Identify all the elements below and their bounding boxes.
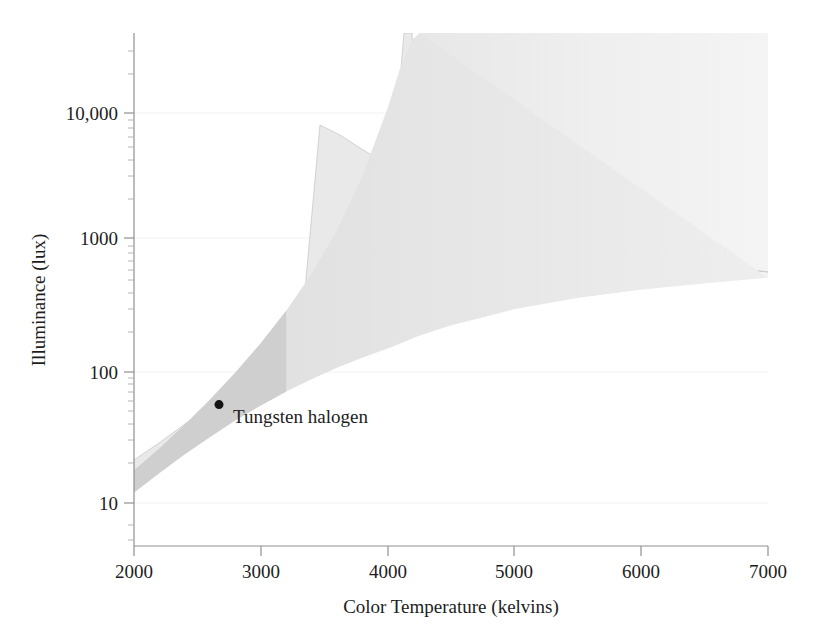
y-tick-label-100: 100 <box>90 362 119 383</box>
x-tick-label-6000: 6000 <box>622 561 660 582</box>
y-tick-label-10: 10 <box>99 493 118 514</box>
y-tick-label-10000: 10,000 <box>66 103 118 124</box>
x-tick-label-5000: 5000 <box>495 561 533 582</box>
x-tick-label-2000: 2000 <box>115 561 153 582</box>
x-tick-label-4000: 4000 <box>369 561 407 582</box>
x-tick-label-7000: 7000 <box>749 561 787 582</box>
y-tick-label-1000: 1000 <box>80 228 118 249</box>
kruithof-curve-chart: 10,000 1000 100 10 2000 3000 4000 5000 6… <box>0 0 820 629</box>
x-axis-title: Color Temperature (kelvins) <box>343 596 559 618</box>
tungsten-halogen-label: Tungsten halogen <box>233 406 368 427</box>
y-axis-title: Illuminance (lux) <box>28 234 50 366</box>
x-tick-label-3000: 3000 <box>242 561 280 582</box>
tungsten-halogen-marker <box>215 400 224 409</box>
chart-figure: 10,000 1000 100 10 2000 3000 4000 5000 6… <box>0 0 820 629</box>
